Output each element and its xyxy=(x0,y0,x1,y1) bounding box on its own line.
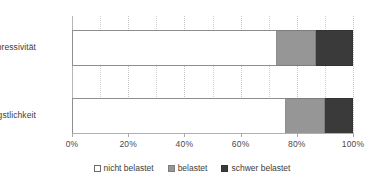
legend-item[interactable]: belastet xyxy=(168,163,208,173)
legend-label: nicht belastet xyxy=(104,163,154,173)
chart-legend: nicht belastetbelastetschwer belastet xyxy=(0,163,384,173)
plot-area xyxy=(72,16,353,133)
bar-row xyxy=(72,98,353,134)
bar-segment-belastet xyxy=(277,30,316,66)
x-axis-tick-label: 20% xyxy=(119,139,137,149)
x-axis-tick-label: 60% xyxy=(232,139,250,149)
legend-item[interactable]: schwer belastet xyxy=(221,163,290,173)
legend-item[interactable]: nicht belastet xyxy=(94,163,154,173)
legend-swatch-icon xyxy=(94,165,101,172)
category-label: Depressivität xyxy=(0,42,36,52)
x-axis-tick-label: 40% xyxy=(176,139,194,149)
x-axis-tick xyxy=(72,133,73,137)
bar-segment-nicht-belastet xyxy=(72,30,277,66)
x-axis-tick-label: 0% xyxy=(66,139,79,149)
x-axis-tick xyxy=(297,133,298,137)
legend-swatch-icon xyxy=(221,165,228,172)
x-axis-tick xyxy=(353,133,354,137)
bar-segment-nicht-belastet xyxy=(72,98,286,134)
legend-swatch-icon xyxy=(168,165,175,172)
legend-label: belastet xyxy=(178,163,208,173)
bar-segment-belastet xyxy=(286,98,325,134)
x-axis-line xyxy=(72,133,353,134)
bar-row xyxy=(72,30,353,66)
gridline xyxy=(353,16,354,133)
bar-segment-schwer-belastet xyxy=(316,30,353,66)
stacked-bar-chart: DepressivitätÄngstlichkeit 0%20%40%60%80… xyxy=(0,0,384,185)
x-axis-tick-label: 100% xyxy=(342,139,365,149)
x-axis-tick xyxy=(241,133,242,137)
x-axis-tick xyxy=(184,133,185,137)
category-label: Ängstlichkeit xyxy=(0,110,36,120)
x-axis-tick-label: 80% xyxy=(288,139,306,149)
x-axis-tick xyxy=(128,133,129,137)
bar-segment-schwer-belastet xyxy=(325,98,353,134)
legend-label: schwer belastet xyxy=(231,163,290,173)
